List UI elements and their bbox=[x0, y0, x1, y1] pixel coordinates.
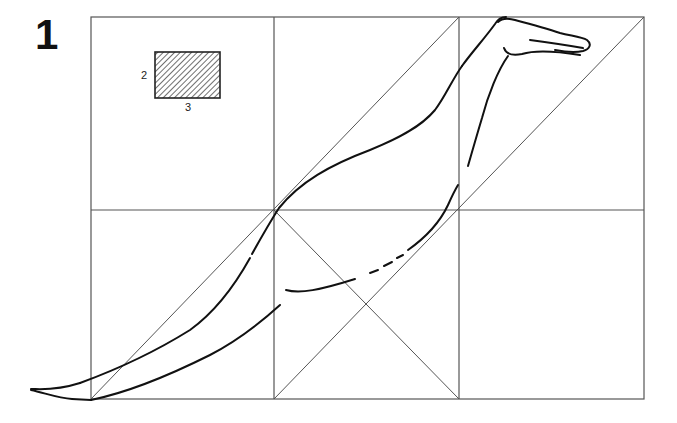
belly-solid bbox=[286, 279, 355, 292]
mouth-line bbox=[530, 40, 583, 48]
tail-underside bbox=[91, 305, 280, 400]
inset-width-label: 3 bbox=[185, 102, 191, 113]
figure-canvas: 1 bbox=[0, 0, 677, 423]
inset-height-label: 2 bbox=[141, 70, 147, 81]
tail-upper bbox=[31, 383, 80, 389]
proportion-inset-rect bbox=[155, 52, 220, 98]
belly-dash-2 bbox=[384, 262, 392, 266]
belly-dash-1 bbox=[370, 270, 378, 273]
belly-dash-3 bbox=[397, 255, 403, 258]
back-curve-upper bbox=[252, 66, 462, 254]
tail-lower bbox=[31, 390, 91, 400]
neck-back bbox=[462, 17, 506, 66]
animal-outline bbox=[31, 17, 590, 400]
diagram bbox=[0, 0, 677, 423]
back-curve-lower bbox=[80, 258, 250, 383]
neck-front bbox=[468, 56, 508, 166]
chest-curve bbox=[408, 185, 458, 250]
